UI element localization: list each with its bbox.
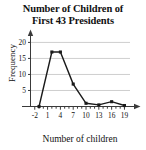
- x-tick-label--2: -2: [32, 111, 38, 120]
- chart-title-line-2: First 43 Presidents: [0, 15, 146, 27]
- y-axis-label: Frequency: [7, 31, 17, 95]
- x-tick-label-10: 10: [82, 111, 90, 120]
- y-axis: 5101520: [19, 30, 34, 107]
- y-tick-label-10: 10: [19, 70, 27, 79]
- data-point-2: [59, 50, 62, 53]
- y-axis-arrowhead: [28, 30, 33, 37]
- x-tick-label-7: 7: [71, 111, 75, 120]
- frequency-polyline: [39, 52, 124, 106]
- data-series-frequency: [37, 50, 126, 108]
- y-tick-label-20: 20: [19, 38, 27, 47]
- data-point-5: [97, 103, 100, 106]
- y-tick-label-5: 5: [22, 86, 26, 95]
- gridlines: [31, 42, 131, 90]
- x-tick-label-4: 4: [59, 111, 63, 120]
- y-tick-label-15: 15: [19, 54, 27, 63]
- data-point-1: [50, 50, 53, 53]
- x-tick-label-1: 1: [46, 111, 50, 120]
- plot-area: 5101520 -214710131619: [0, 28, 146, 128]
- data-point-4: [84, 102, 87, 105]
- y-axis-ticks: 5101520: [19, 38, 31, 95]
- x-tick-label-13: 13: [95, 111, 103, 120]
- data-point-7: [123, 104, 126, 107]
- data-point-3: [72, 83, 75, 86]
- chart-canvas: 5101520 -214710131619: [0, 28, 146, 128]
- x-axis-label: Number of children: [18, 134, 142, 145]
- data-point-6: [110, 100, 113, 103]
- chart-title: Number of Children of First 43 President…: [0, 3, 146, 27]
- x-axis-arrowhead: [134, 104, 141, 109]
- chart-title-line-1: Number of Children of: [23, 3, 123, 14]
- x-tick-label-16: 16: [108, 111, 116, 120]
- x-tick-label-19: 19: [121, 111, 129, 120]
- data-point-0: [37, 105, 40, 108]
- frequency-polygon-figure: Number of Children of First 43 President…: [0, 0, 146, 150]
- x-axis-tick-labels: -214710131619: [32, 111, 129, 120]
